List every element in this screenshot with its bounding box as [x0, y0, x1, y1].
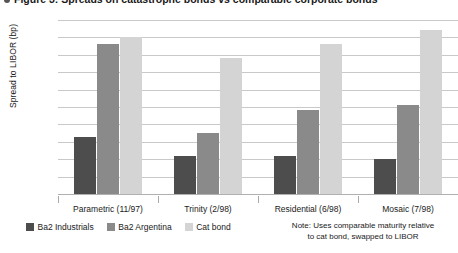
bar	[174, 156, 196, 194]
bar-chart: Spread to LIBOR (bp) 5004504003503002502…	[0, 9, 458, 209]
x-axis-separator	[258, 196, 259, 203]
bar-groups	[58, 20, 458, 194]
x-axis-separator	[158, 196, 159, 203]
bar	[397, 105, 419, 194]
bar-group	[358, 20, 458, 194]
x-axis-category-label: Trinity (2/98)	[184, 204, 231, 214]
bar-group	[258, 20, 358, 194]
legend: Ba2 IndustrialsBa2 ArgentinaCat bond	[26, 222, 231, 232]
bar-group	[58, 20, 158, 194]
bar	[420, 30, 442, 194]
plot-area: 500450400350300250200150100500 Parametri…	[58, 20, 458, 194]
bar	[274, 156, 296, 194]
figure-title-text: Figure 3: Spreads on catastrophe bonds v…	[14, 0, 378, 5]
legend-item[interactable]: Ba2 Argentina	[107, 222, 172, 232]
x-axis-separator	[358, 196, 359, 203]
x-axis-category-label: Residential (6/98)	[275, 204, 342, 214]
bar	[74, 137, 96, 194]
y-axis-title: Spread to LIBOR (bp)	[8, 6, 18, 126]
bar	[374, 159, 396, 194]
bar-group	[158, 20, 258, 194]
bullet-icon	[4, 0, 10, 3]
legend-swatch	[26, 223, 34, 231]
bar	[220, 58, 242, 194]
bar	[97, 44, 119, 194]
chart-note-line-1: Note: Uses comparable maturity relative	[292, 221, 434, 230]
chart-note: Note: Uses comparable maturity relative …	[268, 221, 458, 243]
gridline	[58, 194, 458, 195]
legend-item[interactable]: Cat bond	[185, 222, 231, 232]
bar	[197, 133, 219, 194]
bar	[297, 110, 319, 194]
bar	[120, 37, 142, 194]
x-axis-category-label: Parametric (11/97)	[73, 204, 143, 214]
chart-note-line-2: to cat bond, swapped to LIBOR	[307, 232, 418, 241]
legend-label: Ba2 Industrials	[38, 222, 94, 232]
legend-swatch	[107, 223, 115, 231]
x-axis-category-label: Mosaic (7/98)	[382, 204, 434, 214]
legend-label: Ba2 Argentina	[118, 222, 171, 232]
legend-label: Cat bond	[196, 222, 231, 232]
bar	[320, 44, 342, 194]
legend-swatch	[185, 223, 193, 231]
clipped-figure-title: Figure 3: Spreads on catastrophe bonds v…	[0, 0, 458, 9]
chart-footer: Ba2 IndustrialsBa2 ArgentinaCat bond Not…	[0, 222, 458, 253]
x-axis-separator	[58, 196, 59, 203]
legend-item[interactable]: Ba2 Industrials	[26, 222, 94, 232]
